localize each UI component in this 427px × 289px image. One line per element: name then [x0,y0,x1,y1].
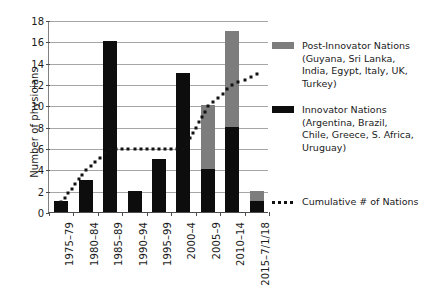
legend-entry: Post-Innovator Nations(Guyana, Sri Lanka… [272,40,424,90]
x-tick-mark [98,212,99,216]
legend-entry: Innovator Nations(Argentina, Brazil,Chil… [272,104,424,154]
cumulative-dot [67,192,70,195]
legend-label-cumulative: Cumulative # of Nations [302,196,424,209]
cumulative-dot [84,169,87,172]
x-tick-label: 1985–89 [113,222,124,266]
cumulative-dot [216,96,219,99]
y-tick-label: 0 [38,208,44,219]
x-tick-mark [122,212,123,216]
cumulative-dot [249,76,252,79]
x-tick-label: 1975–79 [64,222,75,266]
y-tick-label: 8 [38,122,44,133]
x-tick-label: 2015–7/1/18 [260,222,271,286]
cumulative-dot [121,148,124,151]
x-tick-mark [269,212,270,216]
legend-label-line: Chile, Greece, S. Africa, [302,129,424,142]
cumulative-dot [133,148,136,151]
x-tick-mark [147,212,148,216]
cumulative-dot [151,148,154,151]
dotted-line-icon [272,196,296,208]
cumulative-dot [191,132,194,135]
x-tick-mark [245,212,246,216]
cumulative-dot [60,201,63,204]
x-tick-mark [196,212,197,216]
cumulative-dot [176,148,179,151]
cumulative-dot [63,196,66,199]
legend: Post-Innovator Nations(Guyana, Sri Lanka… [272,40,424,168]
cumulative-dot [206,105,209,108]
legend-swatch-innovator-icon [272,106,294,113]
y-tick-label: 18 [31,16,44,27]
x-tick-label: 2000–4 [186,222,197,259]
cumulative-dot [231,84,234,87]
x-tick-label: 2005–9 [211,222,222,259]
cumulative-dot [170,148,173,151]
cumulative-dot [77,178,80,181]
x-tick-label: 1990–94 [138,222,149,266]
x-tick-mark [49,212,50,216]
cumulative-dot [185,142,188,145]
legend-label-line: Turkey) [302,78,424,91]
x-tick-label: 1980–84 [89,222,100,266]
cumulative-dot [226,88,229,91]
cumulative-dot [99,156,102,159]
cumulative-dot [158,148,161,151]
legend-label-line: Uruguay) [302,142,424,155]
cumulative-dot [145,148,148,151]
cumulative-dot [115,148,118,151]
cumulative-dot [194,126,197,129]
legend-label-line: (Guyana, Sri Lanka, [302,53,424,66]
cumulative-dot [200,116,203,119]
x-tick-mark [171,212,172,216]
cumulative-dot [255,73,258,76]
legend-label-line: Innovator Nations [302,104,424,117]
cumulative-dot [139,148,142,151]
y-tick-label: 2 [38,186,44,197]
cumulative-line-series [49,21,268,212]
cumulative-dot [197,121,200,124]
cumulative-dot [188,137,191,140]
legend-swatch-post-innovator-icon [272,42,294,49]
cumulative-dot [104,152,107,155]
cumulative-dot [164,148,167,151]
x-tick-label: 1995–99 [162,222,173,266]
cumulative-dot [203,110,206,113]
cumulative-dot [109,148,112,151]
cumulative-dot [70,187,73,190]
legend-label-line: Post-Innovator Nations [302,40,424,53]
x-tick-mark [220,212,221,216]
y-tick-label: 14 [31,58,44,69]
cumulative-dot [221,92,224,95]
x-tick-mark [73,212,74,216]
legend-label-line: (Argentina, Brazil, [302,117,424,130]
cumulative-dot [211,101,214,104]
cumulative-dot [81,173,84,176]
y-tick-label: 4 [38,165,44,176]
cumulative-dot [94,160,97,163]
x-tick-label: 2010–14 [235,222,246,266]
legend-label-line: India, Egypt, Italy, UK, [302,65,424,78]
plot-area: 024681012141618 [48,21,268,213]
y-tick-label: 12 [31,80,44,91]
y-tick-label: 16 [31,37,44,48]
cumulative-dot [89,165,92,168]
y-tick-label: 10 [31,101,44,112]
legend-entry-cumulative: Cumulative # of Nations [272,196,424,209]
y-tick-label: 6 [38,144,44,155]
cumulative-dot [243,78,246,81]
cumulative-dot [182,148,185,151]
cumulative-dot [127,148,130,151]
chart-container: Number of physicians 024681012141618 197… [0,0,427,289]
cumulative-dot [237,81,240,84]
cumulative-dot [74,183,77,186]
